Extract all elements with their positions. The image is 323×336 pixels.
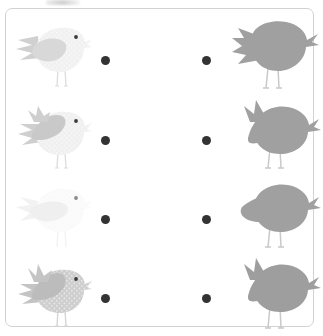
light-bird-tail-left <box>8 14 104 94</box>
dot-row-2-left[interactable] <box>101 136 110 145</box>
dot-row-1-left[interactable] <box>101 56 110 65</box>
right-bird-cell[interactable] <box>222 14 323 94</box>
dot-row-3-right[interactable] <box>202 215 211 224</box>
right-bird-cell[interactable] <box>222 252 323 332</box>
light-bird-wing-up <box>8 94 104 174</box>
dark-bird-wing-up <box>222 94 323 174</box>
dot-row-4-left[interactable] <box>101 294 110 303</box>
left-bird-cell[interactable] <box>8 173 104 253</box>
left-bird-cell[interactable] <box>8 252 104 332</box>
matching-row <box>0 173 323 253</box>
right-bird-cell[interactable] <box>222 94 323 174</box>
dot-row-3-left[interactable] <box>101 215 110 224</box>
dark-bird-wing-up-2 <box>222 252 323 332</box>
matching-row <box>0 252 323 332</box>
worksheet-canvas <box>0 0 323 336</box>
right-bird-cell[interactable] <box>222 173 323 253</box>
matching-row <box>0 14 323 94</box>
dot-row-4-right[interactable] <box>202 294 211 303</box>
light-bird-wing-swept <box>8 173 104 253</box>
dot-row-1-right[interactable] <box>202 56 211 65</box>
matching-rows <box>0 0 323 336</box>
left-bird-cell[interactable] <box>8 94 104 174</box>
left-bird-cell[interactable] <box>8 14 104 94</box>
matching-row <box>0 94 323 174</box>
dot-row-2-right[interactable] <box>202 136 211 145</box>
dark-bird-wing-swept <box>222 173 323 253</box>
light-bird-wing-up-gray <box>8 252 104 332</box>
dark-bird-tail-left <box>222 14 323 94</box>
